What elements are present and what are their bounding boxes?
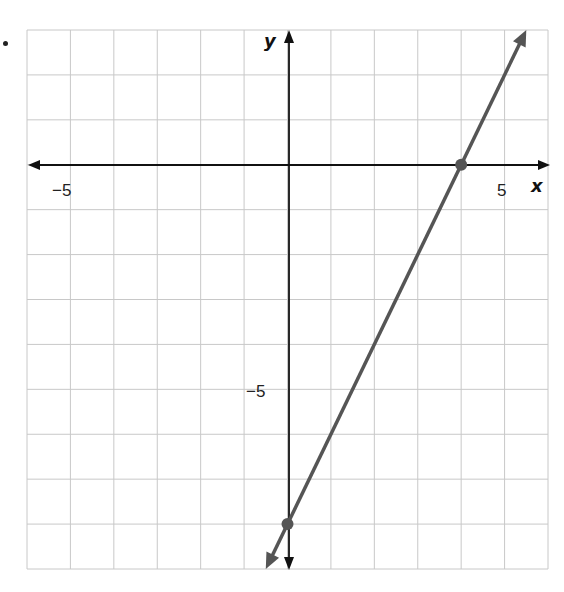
y-tick-label-neg5: −5 xyxy=(246,382,265,401)
point-y-intercept xyxy=(282,518,294,530)
y-axis-up-arrow-icon xyxy=(284,30,294,43)
grid-lines xyxy=(27,30,548,569)
coordinate-graph: −5 5 −5 x y xyxy=(0,0,564,592)
x-tick-label-5: 5 xyxy=(497,181,506,200)
x-tick-label-neg5: −5 xyxy=(52,181,71,200)
point-x-intercept xyxy=(455,159,467,171)
x-axis-left-arrow-icon xyxy=(28,160,40,170)
y-axis-down-arrow-icon xyxy=(284,557,294,570)
y-axis-label: y xyxy=(264,30,277,51)
x-axis-label: x xyxy=(530,175,544,196)
